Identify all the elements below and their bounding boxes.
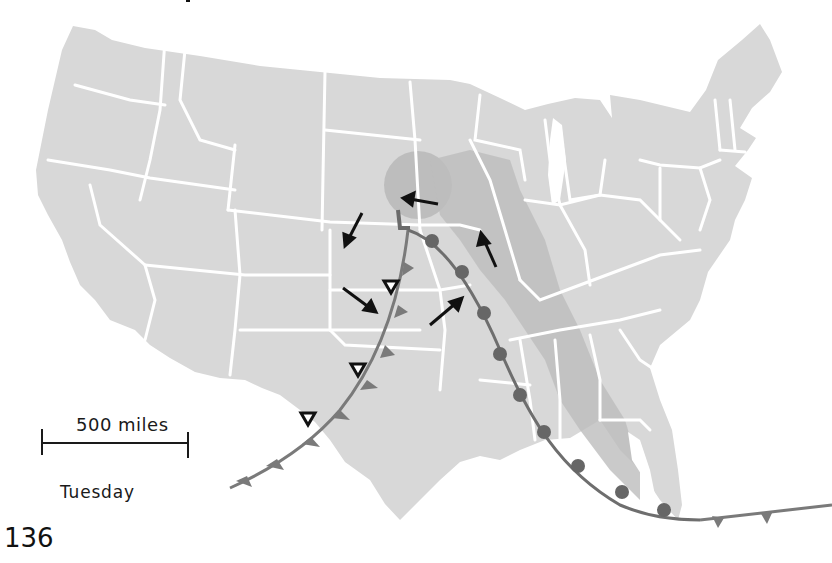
scale-bar-right-tick xyxy=(187,432,189,458)
cropped-title-fragment xyxy=(186,0,190,2)
scale-label: 500 miles xyxy=(76,414,169,435)
page-number: 136 xyxy=(4,523,54,553)
precipitation-triangle-icon xyxy=(301,413,315,425)
scale-bar xyxy=(41,442,189,444)
day-label: Tuesday xyxy=(60,482,135,502)
us-weather-map xyxy=(0,0,832,563)
